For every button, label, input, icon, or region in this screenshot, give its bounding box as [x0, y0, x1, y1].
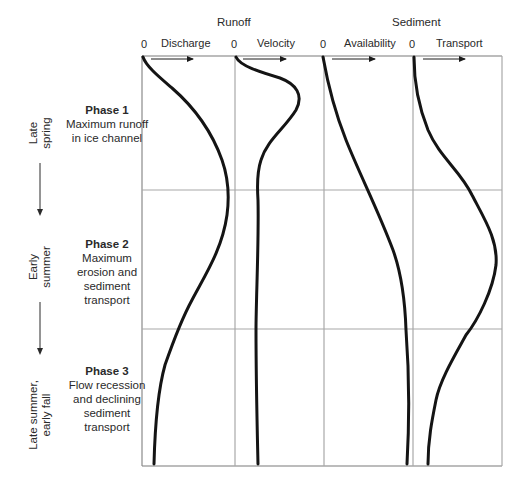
season-label-early-summer: Early summer [27, 237, 53, 297]
phase-3-line: sediment [84, 407, 131, 419]
phase-2-line: Maximum [82, 252, 132, 264]
curve-availability [323, 57, 409, 464]
phase-3-line: transport [84, 421, 129, 433]
phase-2-title: Phase 2 [52, 237, 162, 251]
season-line: Late [27, 122, 39, 144]
phase-3-description: Phase 3 Flow recession and declining sed… [52, 364, 162, 434]
phase-3-line: Flow recession [69, 379, 146, 391]
season-line: Late summer, [27, 380, 39, 450]
phase-2-line: sediment [84, 280, 131, 292]
phase-2-description: Phase 2 Maximum erosion and sediment tra… [52, 237, 162, 307]
season-label-late-spring: Late spring [27, 108, 53, 158]
season-label-late-summer-early-fall: Late summer, early fall [27, 370, 53, 460]
phase-3-line: and declining [73, 393, 141, 405]
curve-velocity [236, 57, 299, 464]
phase-1-title: Phase 1 [52, 103, 162, 117]
runoff-sediment-diagram: Runoff Sediment 0 Discharge 0 Velocity 0… [0, 0, 531, 483]
season-line: Early [27, 254, 39, 280]
season-line: summer [40, 246, 52, 288]
season-line: early fall [40, 394, 52, 437]
curve-transport [414, 57, 496, 464]
phase-1-line: Maximum runoff [66, 118, 148, 130]
phase-2-line: transport [84, 294, 129, 306]
season-line: spring [40, 117, 52, 148]
phase-1-description: Phase 1 Maximum runoff in ice channel [52, 103, 162, 145]
phase-3-title: Phase 3 [52, 364, 162, 378]
phase-2-line: erosion and [77, 266, 137, 278]
grid [142, 56, 502, 466]
phase-1-line: in ice channel [72, 132, 142, 144]
